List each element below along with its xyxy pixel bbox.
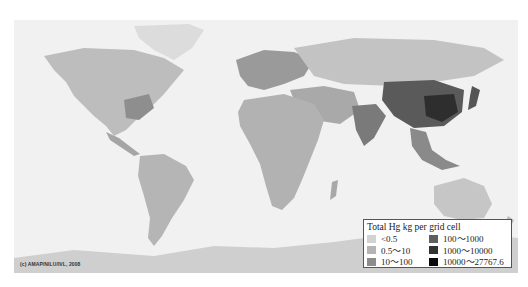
southeast-asia: [410, 128, 460, 170]
legend-swatch: [367, 258, 376, 266]
australia: [434, 178, 492, 220]
north-asia: [294, 38, 504, 86]
legend-swatch: [429, 246, 438, 254]
india: [352, 104, 386, 146]
central-america: [106, 132, 140, 156]
legend-swatch: [429, 235, 438, 243]
south-america: [138, 154, 194, 246]
legend-item: 10～100: [367, 256, 425, 268]
legend-label: <0.5: [381, 234, 397, 244]
north-america: [44, 48, 184, 136]
legend-swatch: [367, 246, 376, 254]
madagascar: [330, 180, 338, 200]
legend-item: 10000～27767.6: [429, 256, 508, 268]
legend-swatch: [429, 258, 438, 266]
japan: [468, 86, 480, 110]
copyright-credit: (c) AMAP/NILU/IVL, 2008: [20, 261, 80, 267]
legend-swatch: [367, 235, 376, 243]
legend: Total Hg kg per grid cell <0.5 0.5～10 10…: [363, 219, 512, 268]
africa: [238, 94, 324, 210]
legend-title: Total Hg kg per grid cell: [367, 222, 508, 233]
legend-items: <0.5 0.5～10 10～100 100～1000 1000～10000 1…: [367, 233, 508, 268]
legend-label: 10～100: [381, 255, 413, 268]
legend-label: 10000～27767.6: [443, 255, 504, 268]
